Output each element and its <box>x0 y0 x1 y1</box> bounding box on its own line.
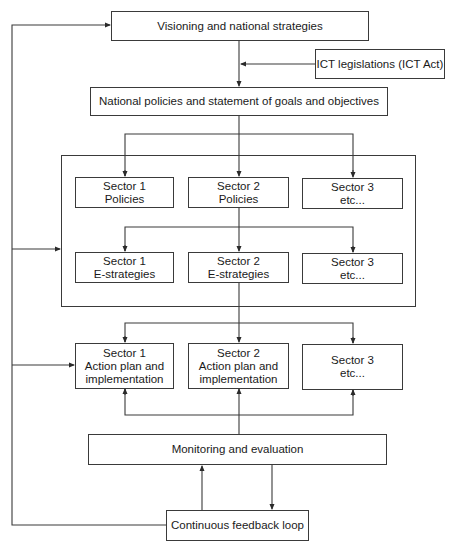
box-line: Sector 1 <box>103 255 146 268</box>
ict-legislation-box: ICT legislations (ICT Act) <box>315 49 445 79</box>
box-line: Action plan and <box>85 360 164 373</box>
box-line: Sector 2 <box>217 255 260 268</box>
sector1-estrategies-box: Sector 1 E-strategies <box>75 252 174 283</box>
box-line: Sector 1 <box>103 180 146 193</box>
sector3-action-plan-box: Sector 3 etc... <box>302 344 403 390</box>
sector1-policies-box: Sector 1 Policies <box>75 177 174 208</box>
box-line: Policies <box>105 193 145 206</box>
box-line: Action plan and <box>199 360 278 373</box>
ict-label: ICT legislations (ICT Act) <box>317 58 444 71</box>
sector2-action-plan-box: Sector 2 Action plan and implementation <box>188 343 289 389</box>
box-line: E-strategies <box>94 268 155 281</box>
box-line: Sector 2 <box>217 347 260 360</box>
sector1-action-plan-box: Sector 1 Action plan and implementation <box>75 343 174 389</box>
sector2-policies-box: Sector 2 Policies <box>188 177 289 208</box>
sector2-estrategies-box: Sector 2 E-strategies <box>188 252 289 283</box>
box-line: Sector 3 <box>331 181 374 194</box>
sector3-policies-box: Sector 3 etc... <box>302 178 403 209</box>
feedback-label: Continuous feedback loop <box>171 519 304 532</box>
box-line: Sector 1 <box>103 347 146 360</box>
box-line: etc... <box>340 269 365 282</box>
box-line: Policies <box>219 193 259 206</box>
national-label: National policies and statement of goals… <box>99 95 379 108</box>
sector3-estrategies-box: Sector 3 etc... <box>302 253 403 284</box>
feedback-loop-box: Continuous feedback loop <box>166 510 309 541</box>
box-line: E-strategies <box>208 268 269 281</box>
visioning-label: Visioning and national strategies <box>157 20 322 33</box>
box-line: implementation <box>86 373 164 386</box>
box-line: Sector 3 <box>331 256 374 269</box>
box-line: etc... <box>340 194 365 207</box>
box-line: Sector 2 <box>217 180 260 193</box>
national-policies-box: National policies and statement of goals… <box>90 87 388 116</box>
box-line: etc... <box>340 367 365 380</box>
monitoring-label: Monitoring and evaluation <box>172 443 304 456</box>
visioning-box: Visioning and national strategies <box>111 11 369 41</box>
box-line: Sector 3 <box>331 354 374 367</box>
box-line: implementation <box>200 373 278 386</box>
monitoring-box: Monitoring and evaluation <box>88 434 387 465</box>
